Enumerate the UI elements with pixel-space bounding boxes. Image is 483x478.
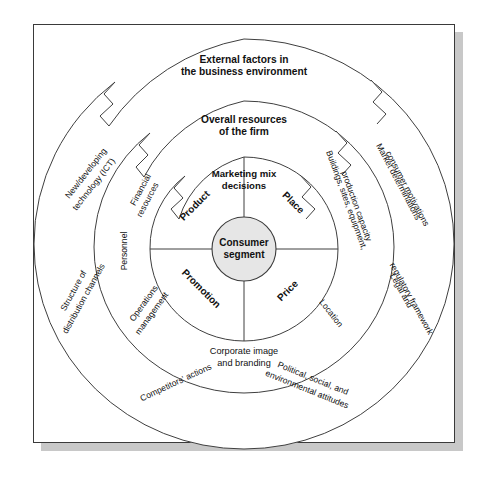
middle-label-corporate-line2: and branding	[217, 358, 271, 368]
middle-label-corporate-line1: Corporate image	[210, 346, 278, 356]
concentric-diagram: External factors in the business environ…	[0, 0, 483, 478]
figure-root: External factors in the business environ…	[0, 0, 483, 478]
outer-ring-heading-line2: the business environment	[181, 66, 308, 77]
hub-label-line1: Consumer	[219, 237, 269, 248]
middle-label-personnel: Personnel	[119, 232, 129, 271]
middle-ring-heading-line2: of the firm	[219, 126, 269, 137]
inner-ring-heading-line2: decisions	[222, 180, 266, 191]
middle-ring-heading-line1: Overall resources	[201, 114, 287, 125]
inner-ring-heading-line1: Marketing mix	[212, 168, 277, 179]
outer-ring-heading-line1: External factors in	[200, 54, 289, 65]
hub-label-line2: segment	[223, 249, 265, 260]
diagram-svg: External factors in the business environ…	[0, 0, 483, 478]
